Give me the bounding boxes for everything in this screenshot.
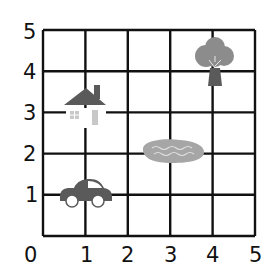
x-label-2: 2 <box>121 245 134 266</box>
y-label-4: 4 <box>23 62 36 83</box>
y-label-5: 5 <box>23 22 36 43</box>
y-label-2: 2 <box>23 144 36 165</box>
tree-icon <box>195 37 234 86</box>
y-label-1: 1 <box>25 185 38 206</box>
y-label-3: 3 <box>23 103 36 124</box>
pond-icon <box>143 139 204 163</box>
x-label-5: 5 <box>249 245 262 266</box>
coordinate-grid <box>0 0 278 277</box>
x-label-1: 1 <box>80 245 93 266</box>
x-label-4: 4 <box>206 245 219 266</box>
x-label-0: 0 <box>24 245 37 266</box>
x-label-3: 3 <box>164 245 177 266</box>
